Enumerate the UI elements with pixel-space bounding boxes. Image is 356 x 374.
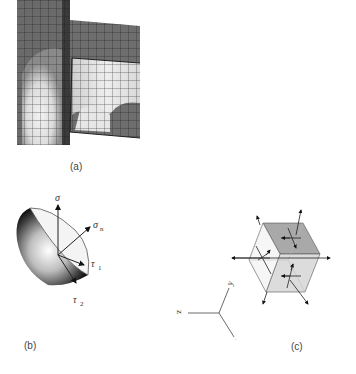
hemisphere-stress-figure: σ σ n τ 1 τ 2 bbox=[0, 185, 170, 325]
label-tau1: τ bbox=[91, 258, 95, 269]
label-y-axis: y bbox=[224, 279, 235, 287]
panel-c-cube: z y x bbox=[170, 180, 356, 340]
panel-a-mesh bbox=[0, 0, 180, 150]
caption-b: (b) bbox=[24, 340, 36, 351]
label-sigma: σ bbox=[55, 192, 61, 203]
label-x-axis: x bbox=[230, 337, 241, 340]
caption-a: (a) bbox=[70, 161, 82, 172]
panel-b-hemisphere: σ σ n τ 1 τ 2 bbox=[0, 185, 170, 325]
label-tau1-sub: 1 bbox=[98, 264, 102, 272]
label-tau2: τ bbox=[73, 294, 77, 305]
label-z-axis: z bbox=[175, 310, 185, 314]
stress-cube-figure: z y x bbox=[170, 180, 356, 340]
fe-mesh-figure bbox=[0, 0, 180, 150]
caption-c: (c) bbox=[291, 341, 303, 352]
label-tau2-sub: 2 bbox=[80, 300, 84, 308]
label-sigma-n: σ bbox=[93, 219, 99, 230]
label-sigma-n-sub: n bbox=[100, 225, 104, 233]
y-axis bbox=[219, 288, 229, 313]
x-axis bbox=[219, 313, 234, 337]
